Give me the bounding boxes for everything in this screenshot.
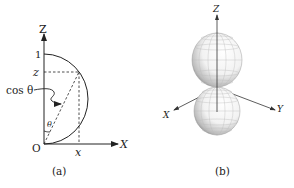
- z-axis-label: Z: [39, 23, 47, 36]
- unit-tick-label: 1: [35, 49, 41, 60]
- theta-arc: [44, 131, 50, 132]
- radius-dashed-line: [44, 72, 79, 144]
- panel-a: Z 1 z cos θ θ O x X (a): [6, 23, 129, 177]
- y-axis-label-b: Y: [277, 104, 284, 114]
- x-axis-label-b: X: [162, 110, 170, 120]
- caption-a: (a): [52, 165, 66, 177]
- panel-b: Z X Y (b): [162, 4, 284, 177]
- cos-theta-pointer: [34, 89, 61, 104]
- z-tick-label: z: [32, 66, 39, 79]
- cos-theta-label: cos θ: [6, 84, 33, 96]
- x-tick-label: x: [75, 146, 82, 159]
- origin-label: O: [32, 142, 41, 154]
- theta-label: θ: [47, 120, 52, 129]
- figure: Z 1 z cos θ θ O x X (a): [0, 0, 294, 188]
- z-axis-label-b: Z: [212, 4, 220, 14]
- x-axis-label: X: [119, 138, 129, 151]
- caption-b: (b): [215, 165, 230, 177]
